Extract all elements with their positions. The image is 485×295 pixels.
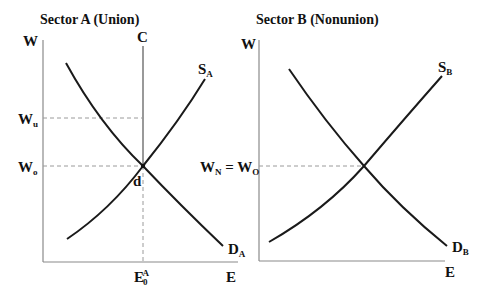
sector-b-wage-label: WN = WO bbox=[200, 159, 259, 177]
sector-b-panel: Sector B (Nonunion) W E WN = WO DB SB bbox=[200, 12, 469, 280]
sector-b-x-axis-label: E bbox=[445, 264, 455, 280]
sector-b-y-axis-label: W bbox=[241, 36, 256, 52]
sector-a-panel: Sector A (Union) W E C Wu Wo DA SA bbox=[18, 12, 246, 287]
sector-a-supply-label: SA bbox=[198, 61, 213, 79]
labor-market-diagram: Sector A (Union) W E C Wu Wo DA SA bbox=[0, 0, 485, 295]
sector-b-supply-label: SB bbox=[438, 59, 452, 77]
sector-a-point-d-label: d bbox=[133, 173, 142, 189]
sector-a-x-axis-label: E bbox=[226, 269, 236, 285]
sector-a-y-axis-label: W bbox=[23, 33, 38, 49]
sector-b-title: Sector B (Nonunion) bbox=[256, 12, 379, 28]
sector-a-demand-curve bbox=[66, 63, 223, 246]
sector-a-demand-label: DA bbox=[228, 241, 246, 259]
sector-a-title: Sector A (Union) bbox=[40, 12, 140, 28]
sector-a-wo-label: Wo bbox=[18, 159, 38, 177]
sector-a-wu-label: Wu bbox=[18, 111, 38, 129]
sector-a-equilibrium-point bbox=[141, 164, 145, 168]
sector-a-c-label: C bbox=[137, 29, 148, 45]
sector-b-demand-label: DB bbox=[452, 239, 469, 257]
sector-b-demand-curve bbox=[289, 69, 447, 246]
sector-b-supply-curve bbox=[269, 76, 442, 242]
sector-a-e0-label: E0A bbox=[134, 268, 150, 287]
